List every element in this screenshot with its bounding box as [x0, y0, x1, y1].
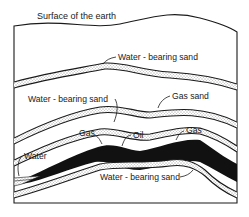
label-water-bearing-sand-top: Water - bearing sand — [118, 52, 198, 62]
label-water: Water — [24, 151, 47, 161]
label-gas-left: Gas — [79, 128, 95, 138]
surface-of-earth-title: Surface of the earth — [37, 11, 116, 21]
water-bearing-sand-layer-top — [14, 63, 237, 90]
water-wedge — [14, 176, 40, 186]
label-oil: Oil — [133, 130, 144, 140]
oil-trap-cross-section-diagram: Surface of the earth — [0, 0, 249, 217]
label-water-bearing-sand-bottom: Water - bearing sand — [100, 172, 180, 182]
label-gas-right: Gas — [186, 125, 202, 135]
label-water-bearing-sand-mid: Water - bearing sand — [28, 94, 108, 104]
label-gas-sand: Gas sand — [172, 91, 209, 101]
